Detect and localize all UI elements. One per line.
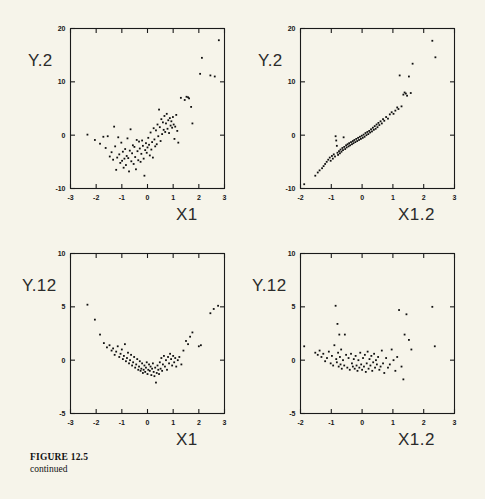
scatter-point bbox=[365, 132, 367, 134]
scatter-point bbox=[401, 105, 403, 107]
scatter-point bbox=[324, 163, 326, 165]
scatter-point bbox=[131, 152, 133, 154]
scatter-point bbox=[345, 144, 347, 146]
scatter-point bbox=[340, 349, 342, 351]
scatter-point bbox=[365, 371, 367, 373]
data-points-top-right bbox=[303, 40, 436, 185]
scatter-point bbox=[393, 113, 395, 115]
scatter-point bbox=[332, 158, 334, 160]
data-points-bottom-left bbox=[87, 304, 219, 384]
scatter-point bbox=[176, 130, 178, 132]
scatter-point bbox=[151, 368, 153, 370]
scatter-point bbox=[105, 147, 107, 149]
scatter-point bbox=[152, 362, 154, 364]
x-tick-label: 2 bbox=[422, 194, 426, 201]
scatter-point bbox=[133, 356, 135, 358]
figure-page: -3-2-10123-1001020 Y.2 X1 -2-10123-10010… bbox=[0, 0, 485, 499]
x-tick-label: -2 bbox=[93, 194, 99, 201]
scatter-point bbox=[174, 126, 176, 128]
scatter-point bbox=[123, 167, 125, 169]
scatter-point bbox=[178, 356, 180, 358]
scatter-point bbox=[143, 158, 145, 160]
scatter-point bbox=[157, 365, 159, 367]
y-axis-title-top-left: Y.2 bbox=[28, 51, 53, 70]
scatter-point bbox=[164, 366, 166, 368]
x-axis-title-top-left: X1 bbox=[176, 205, 198, 224]
scatter-point bbox=[125, 164, 127, 166]
scatter-point bbox=[153, 127, 155, 129]
scatter-point bbox=[351, 143, 353, 145]
scatter-point bbox=[154, 139, 156, 141]
scatter-point bbox=[333, 153, 335, 155]
scatter-point bbox=[393, 359, 395, 361]
scatter-point bbox=[192, 332, 194, 334]
scatter-point bbox=[343, 146, 345, 148]
scatter-point bbox=[341, 151, 343, 153]
scatter-point bbox=[134, 146, 136, 148]
scatter-point bbox=[152, 157, 154, 159]
scatter-point bbox=[382, 362, 384, 364]
scatter-point bbox=[122, 358, 124, 360]
scatter-point bbox=[339, 356, 341, 358]
scatter-point bbox=[144, 371, 146, 373]
scatter-point bbox=[431, 40, 433, 42]
scatter-point bbox=[147, 369, 149, 371]
scatter-point bbox=[341, 368, 343, 370]
scatter-point bbox=[132, 144, 134, 146]
scatter-point bbox=[345, 354, 347, 356]
figure-caption: FIGURE 12.5 continued bbox=[30, 452, 88, 476]
scatter-point bbox=[185, 340, 187, 342]
scatter-point bbox=[359, 352, 361, 354]
scatter-point bbox=[173, 124, 175, 126]
scatter-point bbox=[394, 110, 396, 112]
scatter-point bbox=[343, 136, 345, 138]
scatter-point bbox=[187, 343, 189, 345]
scatter-point bbox=[370, 128, 372, 130]
scatter-point bbox=[435, 56, 437, 58]
scatter-point bbox=[317, 172, 319, 174]
scatter-point bbox=[137, 150, 139, 152]
x-tick-label: -2 bbox=[297, 194, 303, 201]
scatter-point bbox=[375, 128, 377, 130]
scatter-point bbox=[335, 140, 337, 142]
scatter-point bbox=[328, 351, 330, 353]
scatter-point bbox=[127, 352, 129, 354]
scatter-point bbox=[361, 135, 363, 137]
x-axis-title-bottom-left: X1 bbox=[176, 430, 198, 449]
x-tick-label: -2 bbox=[297, 419, 303, 426]
y-tick-label: -10 bbox=[285, 185, 295, 192]
scatter-point bbox=[183, 350, 185, 352]
scatter-point bbox=[129, 150, 131, 152]
scatter-point bbox=[334, 156, 336, 158]
axis-tick-labels-bottom-left: -3-2-10123-50510 bbox=[58, 250, 227, 425]
figure-caption-subtitle: continued bbox=[30, 464, 88, 476]
scatter-point bbox=[332, 365, 334, 367]
scatter-point bbox=[137, 369, 139, 371]
scatter-point bbox=[405, 93, 407, 95]
scatter-point bbox=[335, 358, 337, 360]
scatter-point bbox=[363, 366, 365, 368]
scatter-point bbox=[184, 99, 186, 101]
scatter-point bbox=[408, 339, 410, 341]
scatter-point bbox=[103, 342, 105, 344]
x-axis-title-top-right: X1.2 bbox=[398, 205, 435, 224]
scatter-point bbox=[382, 118, 384, 120]
scatter-point bbox=[357, 370, 359, 372]
scatter-point bbox=[140, 153, 142, 155]
scatter-point bbox=[410, 349, 412, 351]
scatter-point bbox=[369, 358, 371, 360]
scatter-point bbox=[362, 137, 364, 139]
scatter-point bbox=[139, 360, 141, 362]
scatter-point bbox=[355, 355, 357, 357]
axis-tick-labels-top-right: -2-10123-1001020 bbox=[285, 25, 456, 200]
scatter-point bbox=[138, 366, 140, 368]
scatter-point bbox=[132, 361, 134, 363]
scatter-point bbox=[111, 350, 113, 352]
scatter-point bbox=[337, 152, 339, 154]
scatter-point bbox=[326, 357, 328, 359]
scatter-point bbox=[359, 136, 361, 138]
scatter-point bbox=[366, 131, 368, 133]
scatter-point bbox=[140, 161, 142, 163]
scatter-point bbox=[198, 345, 200, 347]
scatter-point bbox=[130, 354, 132, 356]
